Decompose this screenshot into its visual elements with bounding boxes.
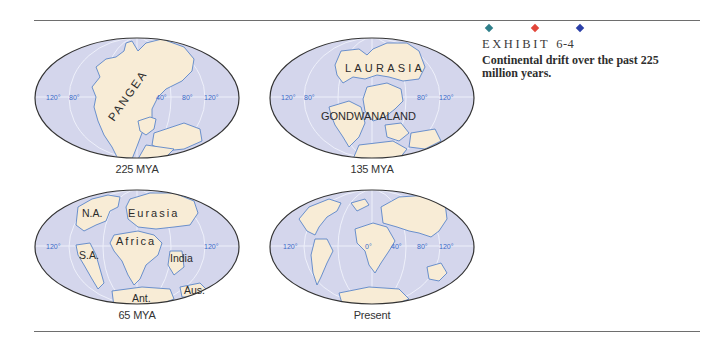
lon-label: 120° [46,243,61,250]
globe-present: 120° 0° 40° 80° 120° [269,189,475,307]
bottom-rule [34,331,700,332]
region-label-africa: Africa [116,235,156,247]
region-label-north-america: N.A. [82,207,102,219]
exhibit-title: EXHIBIT6-4 [482,37,712,52]
exhibit-label: EXHIBIT [482,37,550,51]
region-label-south-america: S.A. [79,249,99,261]
lon-label: 0° [365,243,372,250]
diamond-icon [485,24,493,32]
lon-label: 40° [391,243,402,250]
region-label-india: India [170,252,193,264]
exhibit-number: 6-4 [556,37,574,51]
map-caption: 225 MYA [34,163,240,175]
lon-label: 120° [439,94,454,101]
lon-label: 80° [182,94,193,101]
map-225-mya: 120° 80° 40° 80° 120° PANGEA 225 MYA [34,37,244,177]
exhibit-description: Continental drift over the past 225 mill… [482,54,662,80]
map-caption: 135 MYA [269,163,475,175]
map-135-mya: 120° 80° 80° 120° LAURASIA GONDWANALAND … [269,37,479,177]
map-caption: 65 MYA [34,309,240,321]
region-label-eurasia: Eurasia [128,207,179,219]
lon-label: 80° [417,243,428,250]
lon-label: 80° [69,94,80,101]
diamond-icon [531,24,539,32]
lon-label: 120° [283,243,298,250]
lon-label: 80° [304,94,315,101]
lon-label: 40° [156,94,167,101]
region-label-australia: Aus. [184,284,205,296]
region-label-gondwanaland: GONDWANALAND [321,110,416,122]
region-label-antarctica: Ant. [132,292,151,304]
lon-label: 80° [417,94,428,101]
globe-135-mya: 120° 80° 80° 120° LAURASIA GONDWANALAND [269,37,475,159]
diamond-icon [576,24,584,32]
exhibit-caption-block: EXHIBIT6-4 Continental drift over the pa… [482,22,712,80]
globe-65-mya: 120° 120° N.A. Eurasia Africa S.A. India… [34,189,240,307]
map-caption: Present [269,309,475,321]
region-label-laurasia: LAURASIA [345,62,425,74]
lon-label: 120° [204,243,219,250]
lon-label: 120° [439,243,454,250]
globe-225-mya: 120° 80° 40° 80° 120° PANGEA [34,37,240,159]
lon-label: 120° [281,94,296,101]
map-65-mya: 120° 120° N.A. Eurasia Africa S.A. India… [34,189,244,329]
lon-label: 120° [46,94,61,101]
top-rule [34,20,700,21]
lon-label: 120° [204,94,219,101]
map-present: 120° 0° 40° 80° 120° Present [269,189,479,329]
decorative-diamonds [482,22,712,34]
